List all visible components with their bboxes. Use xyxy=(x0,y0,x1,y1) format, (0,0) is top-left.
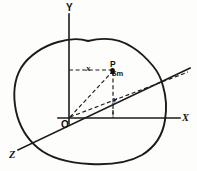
rigid-body-outline xyxy=(14,39,166,164)
y-coordinate-label: y xyxy=(113,95,117,104)
mass-element-label: δm xyxy=(112,70,123,78)
x-coordinate-label: x xyxy=(86,64,91,73)
y-axis-label: Y xyxy=(66,3,73,13)
x-axis-label: X xyxy=(182,113,189,124)
z-axis-label: Z xyxy=(9,150,15,161)
z-projection-dashed-line xyxy=(70,72,188,117)
point-p-label: P xyxy=(110,60,116,69)
origin-label: O xyxy=(61,120,69,130)
diagram-canvas xyxy=(0,0,197,171)
position-vector-dashed-line xyxy=(70,72,112,117)
figure-container: Y X Z O P δm x y xyxy=(0,0,197,171)
